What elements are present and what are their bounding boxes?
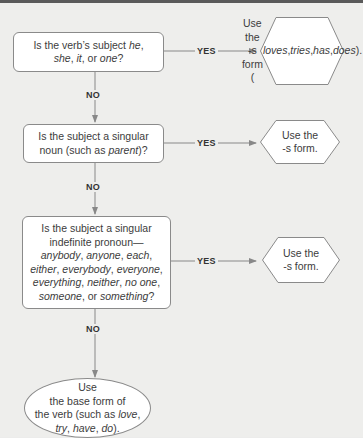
question-box-3: Is the subject a singularindefinite pron… (22, 216, 171, 309)
outcome-hexagon-2: Use the-s form. (260, 120, 340, 164)
no-label-2: NO (84, 182, 102, 192)
question-text-3: Is the subject a singularindefinite pron… (30, 222, 163, 303)
question-text-2: Is the subject a singularnoun (such as p… (38, 130, 148, 157)
final-outcome-text: Usethe base form ofthe verb (such as lov… (35, 381, 141, 435)
final-outcome-oval: Usethe base form ofthe verb (such as lov… (24, 378, 151, 438)
yes-label-1: YES (195, 46, 218, 56)
no-label-1: NO (84, 90, 102, 100)
outcome-text-1: Use the-s form(loves, tries,has, does). (260, 17, 344, 85)
question-text-1: Is the verb’s subject he,she, it, or one… (33, 39, 143, 66)
outcome-text-2: Use the-s form. (260, 120, 340, 164)
outcome-text-3: Use the-s form. (262, 237, 340, 283)
no-label-3: NO (84, 324, 102, 334)
yes-label-2: YES (195, 138, 218, 148)
outcome-hexagon-3: Use the-s form. (262, 237, 340, 283)
question-box-2: Is the subject a singularnoun (such as p… (23, 124, 164, 163)
yes-label-3: YES (195, 256, 218, 266)
outcome-hexagon-1: Use the-s form(loves, tries,has, does). (260, 17, 344, 85)
question-box-1: Is the verb’s subject he,she, it, or one… (13, 32, 164, 72)
